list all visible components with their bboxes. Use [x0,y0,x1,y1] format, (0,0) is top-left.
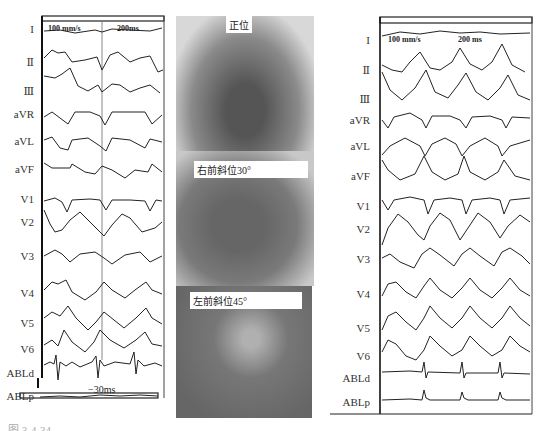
left-lead-label-V3: V3 [0,250,34,262]
right-lead-label-ABLd: ABLd [336,372,370,384]
xray-label-ap: 正位 [226,16,252,33]
right-lead-label-III: Ⅲ [336,93,370,106]
left-lead-label-III: Ⅲ [0,85,34,98]
right-lead-label-ABLp: ABLp [336,396,370,408]
left-lead-label-ABLp: ABLp [0,390,34,402]
left-lead-label-V4: V4 [0,287,34,299]
left-ecg-panel: 100 mm/s 200ms I Ⅱ Ⅲ aVR aVL aVF V1 V2 V… [0,0,170,415]
right-lead-label-aVL: aVL [336,140,370,152]
xray-image-ap: 正位 [176,16,314,151]
right-lead-label-V1: V1 [336,200,370,212]
right-lead-label-V6: V6 [336,350,370,362]
xray-image-rao: 右前斜位30° [176,151,314,286]
left-lead-label-aVR: aVR [0,108,34,120]
left-lead-label-V5: V5 [0,317,34,329]
right-lead-label-aVR: aVR [336,114,370,126]
right-ecg-panel: 100 mm/s 200 ms I Ⅱ Ⅲ aVR aVL aVF V1 V2 … [330,0,543,415]
figure-caption: 图 3-4-34 [8,421,51,431]
right-scale-interval: 200 ms [458,35,482,44]
right-lead-label-V5: V5 [336,322,370,334]
right-scale-speed: 100 mm/s [388,35,421,44]
xray-label-lao: 左前斜位45° [190,292,302,309]
xray-label-rao: 右前斜位30° [194,161,308,178]
left-lead-label-aVL: aVL [0,135,34,147]
left-lead-label-V6: V6 [0,343,34,355]
fluoroscopy-panel: 正位 右前斜位30° 左前斜位45° [176,8,318,418]
right-lead-label-V2: V2 [336,223,370,235]
right-lead-label-I: I [336,34,370,46]
left-lead-label-ABLd: ABLd [0,367,34,379]
left-lead-label-aVF: aVF [0,163,34,175]
right-lead-label-II: Ⅱ [336,64,370,77]
left-lead-label-V1: V1 [0,193,34,205]
left-lead-label-I: I [0,23,34,35]
left-scale-speed: 100 mm/s [48,24,81,33]
right-lead-label-V3: V3 [336,253,370,265]
left-scale-interval: 200ms [117,24,139,33]
left-lead-label-II: Ⅱ [0,56,34,69]
xray-image-lao: 左前斜位45° [176,286,312,418]
timing-annotation: −30ms [88,384,115,395]
right-lead-label-V4: V4 [336,288,370,300]
left-lead-label-V2: V2 [0,216,34,228]
right-lead-label-aVF: aVF [336,170,370,182]
